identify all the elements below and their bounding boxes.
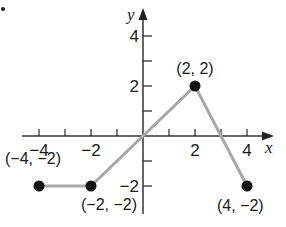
- point-label: (−4, −2): [5, 150, 61, 167]
- point-label: (2, 2): [176, 60, 213, 77]
- point-label: (−2, −2): [81, 196, 137, 213]
- x-tick-labels: −4−224: [29, 141, 251, 160]
- y-tick-label: −2: [120, 177, 139, 196]
- x-axis-label: x: [264, 138, 273, 157]
- data-point: [190, 81, 201, 92]
- bullet-mark: [1, 7, 5, 11]
- x-tick-label: −2: [81, 141, 100, 160]
- data-point: [86, 181, 97, 192]
- y-ticks: [143, 36, 152, 186]
- point-label: (4, −2): [217, 197, 264, 214]
- data-point: [34, 181, 45, 192]
- y-axis-label: y: [125, 5, 135, 24]
- y-tick-labels: 42−2: [120, 27, 139, 196]
- y-axis-arrow-icon: [139, 8, 148, 20]
- y-tick-label: 2: [130, 77, 139, 96]
- graph: −4−224 42−2 x y (−4, −2)(−2, −2)(2, 2)(4…: [0, 0, 286, 227]
- x-tick-label: 4: [242, 141, 251, 160]
- y-tick-label: 4: [130, 27, 139, 46]
- x-tick-label: 2: [190, 141, 199, 160]
- data-point: [242, 181, 253, 192]
